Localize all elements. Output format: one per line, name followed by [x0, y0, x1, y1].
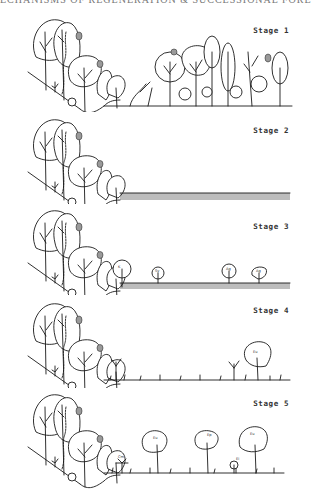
stage-5-label: Stage 5	[253, 399, 289, 408]
stage-4-label: Stage 4	[253, 306, 289, 315]
hatched-grass	[120, 193, 290, 200]
svg-text:Eu: Eu	[253, 350, 258, 354]
svg-text:Ag: Ag	[256, 269, 261, 273]
stage-4-panel: Eu Stage 4	[0, 296, 311, 388]
svg-text:Ag: Ag	[226, 267, 231, 271]
svg-text:Eu: Eu	[153, 436, 158, 440]
page-header: ECHANISMS OF REGENERATION & SUCCESSIONAL…	[0, 0, 311, 5]
stage-2-panel: Stage 2	[0, 112, 311, 204]
svg-text:Ep: Ep	[207, 433, 212, 437]
stage-2-label: Stage 2	[253, 126, 289, 135]
svg-text:Ei: Ei	[236, 457, 239, 461]
stage-1-panel: Stage 1	[0, 12, 311, 112]
stage-5-panel: Cm Eu Ep Ei Eu Stage 5	[0, 387, 311, 499]
stage-1-label: Stage 1	[253, 26, 289, 35]
stage-3-illustration: K Sy Ag Ag	[0, 203, 311, 295]
stage-3-label: Stage 3	[253, 222, 289, 231]
svg-text:Cm: Cm	[118, 455, 125, 459]
stage-3-panel: K Sy Ag Ag Stage 3	[0, 203, 311, 295]
svg-text:Eu: Eu	[250, 432, 255, 436]
